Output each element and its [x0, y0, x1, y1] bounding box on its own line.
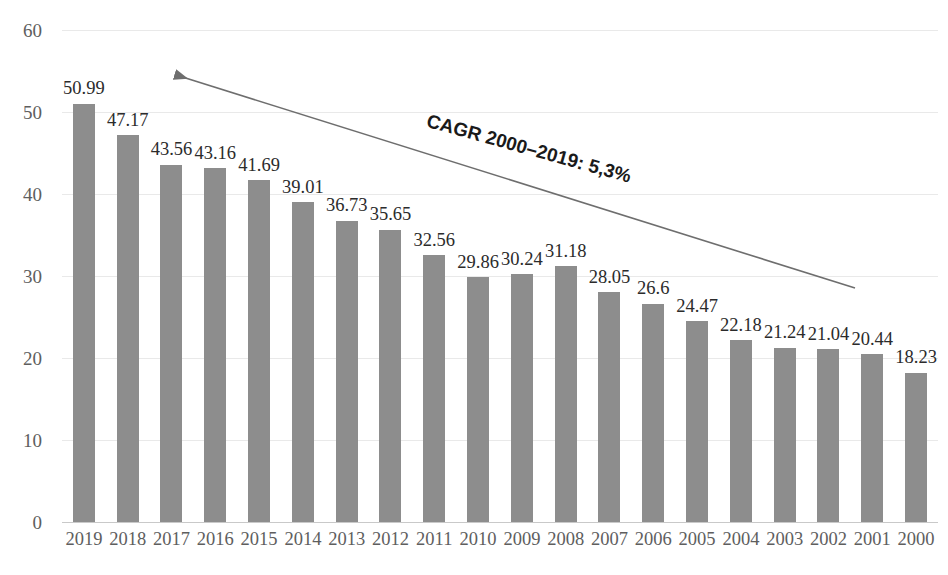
bar-value-label: 21.24 [764, 323, 806, 342]
y-axis-tick-label: 60 [0, 21, 42, 40]
bar-value-label: 29.86 [457, 253, 499, 272]
bar-value-label: 39.01 [282, 178, 324, 197]
bar[interactable] [511, 274, 533, 522]
x-axis-tick-label: 2008 [547, 530, 584, 549]
bar[interactable] [160, 165, 182, 522]
x-axis-tick-label: 2005 [679, 530, 716, 549]
bar[interactable] [642, 304, 664, 522]
x-axis-tick-label: 2014 [284, 530, 321, 549]
bar-value-label: 41.69 [238, 156, 280, 175]
bar-value-label: 20.44 [851, 330, 893, 349]
bar-slot: 43.562017 [150, 30, 194, 522]
bar-slot: 32.562011 [412, 30, 456, 522]
bar-value-label: 22.18 [720, 316, 762, 335]
bar-slot: 36.732013 [325, 30, 369, 522]
x-axis-tick-label: 2012 [372, 530, 409, 549]
x-axis-tick-label: 2007 [591, 530, 628, 549]
bar-slot: 28.052007 [588, 30, 632, 522]
x-axis-tick-label: 2009 [503, 530, 540, 549]
bar[interactable] [248, 180, 270, 522]
x-axis-tick-label: 2002 [810, 530, 847, 549]
bar-chart: 0102030405060 50.99201947.17201843.56201… [0, 0, 948, 575]
y-axis-tick-label: 30 [0, 267, 42, 286]
y-axis-tick-label: 10 [0, 431, 42, 450]
bar-slot: 26.62006 [631, 30, 675, 522]
x-axis-tick-label: 2017 [153, 530, 190, 549]
bar[interactable] [774, 348, 796, 522]
bar[interactable] [336, 221, 358, 522]
bar-value-label: 30.24 [501, 250, 543, 269]
bar-value-label: 43.16 [194, 144, 236, 163]
bar-value-label: 47.17 [107, 111, 149, 130]
bar-value-label: 21.04 [808, 325, 850, 344]
y-axis-tick-label: 40 [0, 185, 42, 204]
x-axis-tick-label: 2006 [635, 530, 672, 549]
x-axis-tick-label: 2018 [109, 530, 146, 549]
y-axis-tick-label: 20 [0, 349, 42, 368]
bar-slot: 35.652012 [369, 30, 413, 522]
bar-value-label: 35.65 [370, 205, 412, 224]
bar-value-label: 24.47 [676, 297, 718, 316]
x-axis-tick-label: 2011 [416, 530, 452, 549]
x-axis-tick-label: 2003 [766, 530, 803, 549]
bar-value-label: 18.23 [895, 348, 937, 367]
x-axis-tick-label: 2015 [241, 530, 278, 549]
bar-value-label: 32.56 [413, 231, 455, 250]
bar[interactable] [423, 255, 445, 522]
x-axis-tick-label: 2016 [197, 530, 234, 549]
bar-slot: 50.992019 [62, 30, 106, 522]
bar-value-label: 31.18 [545, 242, 587, 261]
bar-value-label: 26.6 [637, 279, 669, 298]
bar-slot: 30.242009 [500, 30, 544, 522]
x-axis-baseline [62, 522, 938, 523]
bar-value-label: 36.73 [326, 196, 368, 215]
bar-slot: 29.862010 [456, 30, 500, 522]
x-axis-tick-label: 2004 [722, 530, 759, 549]
bar-value-label: 43.56 [151, 140, 193, 159]
bar[interactable] [117, 135, 139, 522]
bar[interactable] [555, 266, 577, 522]
x-axis-tick-label: 2013 [328, 530, 365, 549]
bar[interactable] [730, 340, 752, 522]
bar-value-label: 28.05 [589, 268, 631, 287]
y-axis-tick-label: 0 [0, 513, 42, 532]
x-axis-tick-label: 2010 [460, 530, 497, 549]
bar-slot: 47.172018 [106, 30, 150, 522]
plot-area: 0102030405060 50.99201947.17201843.56201… [62, 30, 938, 522]
bar[interactable] [204, 168, 226, 522]
bar-slot: 41.692015 [237, 30, 281, 522]
bar-slot: 21.242003 [763, 30, 807, 522]
x-axis-tick-label: 2001 [854, 530, 891, 549]
bar[interactable] [467, 277, 489, 522]
bar[interactable] [686, 321, 708, 522]
bar[interactable] [73, 104, 95, 522]
bar[interactable] [905, 373, 927, 522]
bar-slot: 31.182008 [544, 30, 588, 522]
bar-slot: 24.472005 [675, 30, 719, 522]
bar[interactable] [379, 230, 401, 522]
bar-slot: 22.182004 [719, 30, 763, 522]
bar[interactable] [817, 349, 839, 522]
bar-slot: 21.042002 [807, 30, 851, 522]
bar-slot: 39.012014 [281, 30, 325, 522]
bar-slot: 43.162016 [193, 30, 237, 522]
bar-value-label: 50.99 [63, 79, 105, 98]
bar[interactable] [598, 292, 620, 522]
x-axis-tick-label: 2000 [898, 530, 935, 549]
x-axis-tick-label: 2019 [65, 530, 102, 549]
bar-slot: 20.442001 [850, 30, 894, 522]
bar-slot: 18.232000 [894, 30, 938, 522]
y-axis-tick-label: 50 [0, 103, 42, 122]
bar[interactable] [861, 354, 883, 522]
bar[interactable] [292, 202, 314, 522]
